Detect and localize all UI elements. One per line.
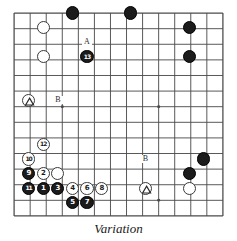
- black-stone-11[interactable]: 11: [22, 182, 35, 195]
- white-stone-2[interactable]: 2: [37, 167, 50, 180]
- stone-move-number: 11: [25, 185, 31, 191]
- black-stone[interactable]: [197, 152, 210, 165]
- stone-move-number: 3: [56, 185, 60, 192]
- stone-move-number: 8: [99, 185, 103, 192]
- black-stone[interactable]: [183, 167, 196, 180]
- stone-move-number: 4: [70, 185, 74, 192]
- figure-caption: Variation: [0, 221, 237, 237]
- go-board[interactable]: 13121092111346857 ABB: [13, 12, 224, 217]
- stone-move-number: 5: [70, 199, 74, 206]
- black-stone[interactable]: [66, 6, 79, 19]
- go-variation-figure: 13121092111346857 ABB Variation: [0, 0, 237, 241]
- white-stone[interactable]: [139, 182, 152, 195]
- black-stone[interactable]: [124, 6, 137, 19]
- white-stone[interactable]: [183, 182, 196, 195]
- black-stone[interactable]: [183, 21, 196, 34]
- white-stone[interactable]: [37, 21, 50, 34]
- stone-move-number: 2: [41, 170, 45, 177]
- point-label-b: B: [140, 155, 150, 163]
- stone-move-number: 12: [40, 141, 46, 147]
- point-label-b: B: [53, 96, 63, 104]
- point-label-a: A: [82, 38, 92, 46]
- white-stone-10[interactable]: 10: [22, 152, 35, 165]
- white-stone-6[interactable]: 6: [80, 182, 93, 195]
- stone-move-number: 6: [85, 185, 89, 192]
- stone-move-number: 13: [84, 54, 90, 60]
- white-stone-8[interactable]: 8: [95, 182, 108, 195]
- black-stone-13[interactable]: 13: [80, 50, 93, 63]
- white-stone-12[interactable]: 12: [37, 138, 50, 151]
- stone-move-number: 10: [25, 156, 31, 162]
- stone-move-number: 9: [26, 170, 30, 177]
- stone-move-number: 1: [41, 185, 45, 192]
- white-stone-4[interactable]: 4: [66, 182, 79, 195]
- black-stone-7[interactable]: 7: [80, 196, 93, 209]
- stone-move-number: 7: [85, 199, 89, 206]
- black-stone-1[interactable]: 1: [37, 182, 50, 195]
